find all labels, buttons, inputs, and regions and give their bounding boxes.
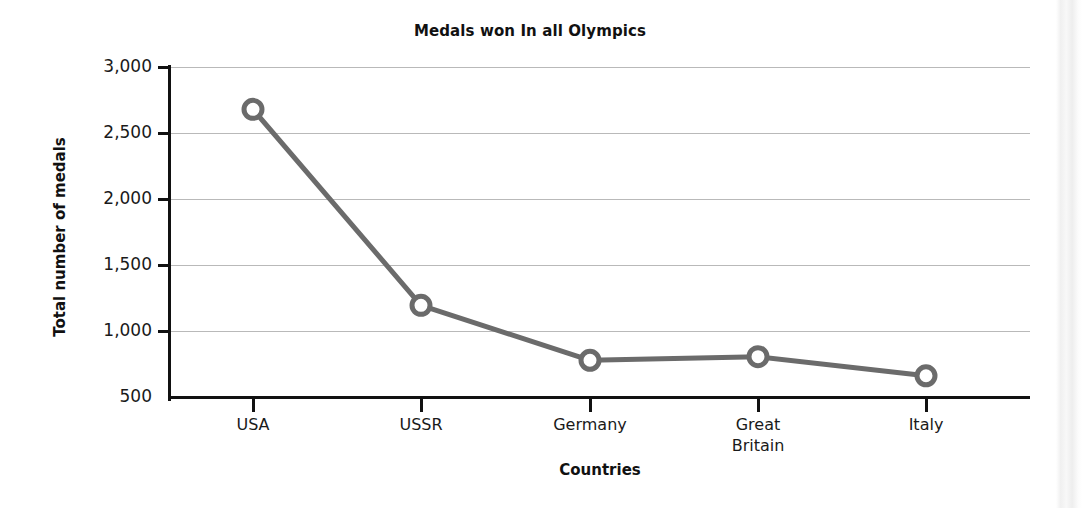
chart-figure: Medals won In all Olympics Total number …: [0, 0, 1060, 508]
data-series-layer: [0, 0, 1060, 508]
data-point-great-britain: [749, 348, 767, 366]
data-point-usa: [244, 100, 262, 118]
data-point-germany: [581, 351, 599, 369]
data-point-italy: [917, 367, 935, 385]
data-point-ussr: [412, 296, 430, 314]
series-markers: [244, 100, 935, 384]
series-line: [253, 109, 926, 375]
